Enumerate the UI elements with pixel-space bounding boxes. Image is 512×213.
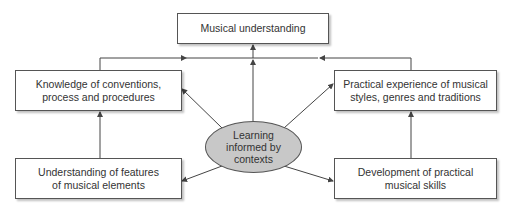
- node-label-line1: Understanding of features: [38, 166, 159, 179]
- node-musical-understanding: Musical understanding: [177, 13, 329, 44]
- node-label-line3: contexts: [234, 153, 273, 165]
- node-practical-experience: Practical experience of musical styles, …: [334, 70, 497, 111]
- node-practical-skills: Development of practical musical skills: [334, 158, 497, 199]
- node-label-line1: Knowledge of conventions,: [36, 78, 162, 91]
- node-label: Musical understanding: [200, 22, 305, 35]
- node-label-line1: Learning: [233, 129, 274, 141]
- node-understanding-features: Understanding of features of musical ele…: [15, 158, 182, 199]
- node-label-line2: process and procedures: [42, 91, 155, 104]
- node-label-line1: Practical experience of musical: [343, 78, 488, 91]
- node-label-line1: Development of practical: [358, 166, 474, 179]
- node-label-line2: informed by: [226, 141, 281, 153]
- node-learning-contexts: Learning informed by contexts: [205, 121, 302, 173]
- node-knowledge-conventions: Knowledge of conventions, process and pr…: [15, 70, 182, 111]
- node-label-line2: styles, genres and traditions: [350, 91, 481, 104]
- node-label-line2: musical skills: [385, 179, 446, 192]
- node-label-line2: of musical elements: [52, 179, 145, 192]
